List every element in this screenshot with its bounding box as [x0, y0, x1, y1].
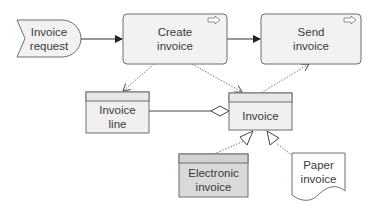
send-invoice-label: Send invoice — [261, 14, 361, 64]
assoc-invoice-to-send — [261, 64, 309, 93]
invoice-header — [229, 93, 292, 102]
generalization-electronic-line — [214, 141, 244, 154]
electronic-invoice-label: Electronic invoice — [179, 163, 248, 197]
assoc-create-to-invoice — [192, 64, 242, 92]
invoice-label: Invoice — [229, 102, 292, 130]
generalization-triangle-right-icon — [267, 131, 279, 145]
invoice-request-label: Invoice request — [20, 20, 78, 57]
aggregation-diamond-icon — [211, 106, 229, 116]
invoice-line-label: Invoice line — [86, 101, 149, 133]
electronic-invoice-header — [179, 154, 248, 163]
create-invoice-label: Create invoice — [123, 14, 227, 64]
generalization-triangle-left-icon — [240, 131, 253, 145]
paper-invoice-label: Paper invoice — [292, 156, 345, 188]
generalization-paper-line — [276, 143, 293, 156]
assoc-create-to-invoice-line — [123, 64, 154, 91]
invoice-line-header — [86, 92, 149, 101]
